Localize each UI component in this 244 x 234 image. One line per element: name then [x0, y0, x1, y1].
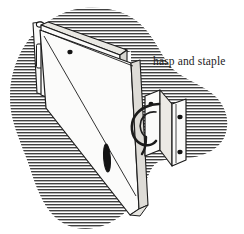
caption-label: hasp and staple [153, 55, 226, 68]
illustration-figure: hasp and staple [0, 0, 244, 234]
screw-hole [177, 150, 182, 155]
screw-hole [67, 50, 72, 55]
hasp-and-staple-drawing: hasp and staple [0, 0, 244, 234]
staple-face [172, 99, 186, 166]
screw-hole [177, 115, 182, 120]
